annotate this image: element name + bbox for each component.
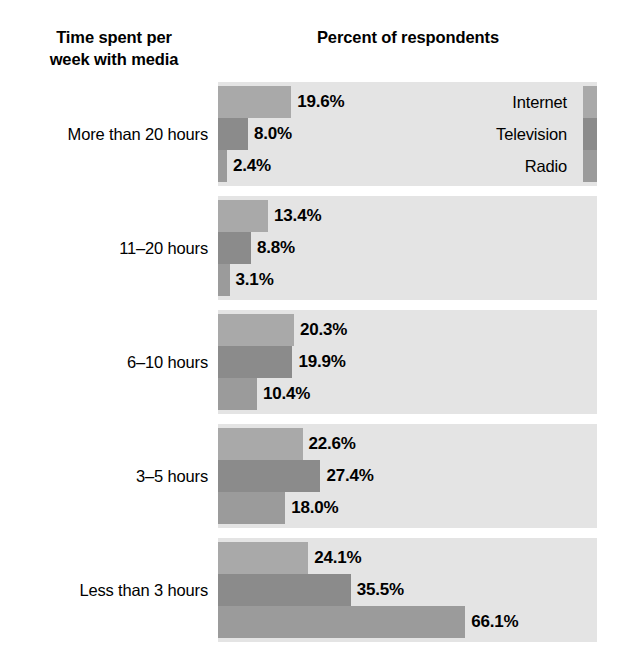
value-axis-title: Percent of respondents — [218, 26, 598, 48]
plot-panel: 22.6%27.4%18.0% — [218, 424, 597, 528]
plot-panel: 24.1%35.5%66.1% — [218, 538, 597, 642]
chart-group: More than 20 hours19.6%8.0%2.4%InternetT… — [0, 82, 620, 186]
bar-row: 19.9% — [218, 346, 597, 378]
legend-label-television: Television — [496, 118, 567, 150]
plot-panel: 19.6%8.0%2.4%InternetTelevisionRadio — [218, 82, 597, 186]
chart-group: Less than 3 hours24.1%35.5%66.1% — [0, 538, 620, 642]
bar-value-label: 27.4% — [320, 460, 373, 492]
bar-radio[interactable] — [218, 492, 285, 524]
category-label: 11–20 hours — [0, 196, 208, 300]
category-label: 3–5 hours — [0, 424, 208, 528]
bar-value-label: 24.1% — [308, 542, 361, 574]
bar-internet[interactable] — [218, 86, 291, 118]
bar-row: 66.1% — [218, 606, 597, 638]
bar-value-label: 8.0% — [248, 118, 292, 150]
bar-internet[interactable] — [218, 200, 268, 232]
legend-swatch-internet — [583, 86, 597, 118]
bar-television[interactable] — [218, 460, 320, 492]
bar-value-label: 22.6% — [303, 428, 356, 460]
bar-row: 10.4% — [218, 378, 597, 410]
category-axis-title: Time spent perweek with media — [18, 26, 210, 70]
bar-value-label: 35.5% — [351, 574, 404, 606]
bar-value-label: 19.9% — [292, 346, 345, 378]
bar-value-label: 18.0% — [285, 492, 338, 524]
plot-panel: 20.3%19.9%10.4% — [218, 310, 597, 414]
bar-internet[interactable] — [218, 314, 294, 346]
bar-television[interactable] — [218, 232, 251, 264]
bar-value-label: 20.3% — [294, 314, 347, 346]
bar-value-label: 3.1% — [230, 264, 274, 296]
bar-value-label: 2.4% — [227, 150, 271, 182]
bar-value-label: 8.8% — [251, 232, 295, 264]
bar-television[interactable] — [218, 574, 351, 606]
bar-value-label: 10.4% — [257, 378, 310, 410]
legend-swatch-radio — [583, 150, 597, 182]
bar-radio[interactable] — [218, 378, 257, 410]
legend-label-radio: Radio — [525, 150, 567, 182]
plot-panel: 13.4%8.8%3.1% — [218, 196, 597, 300]
bar-row: 8.8% — [218, 232, 597, 264]
bar-radio[interactable] — [218, 606, 465, 638]
bar-internet[interactable] — [218, 428, 303, 460]
chart-header: Time spent perweek with media Percent of… — [0, 26, 620, 82]
bar-radio[interactable] — [218, 150, 227, 182]
bar-value-label: 19.6% — [291, 86, 344, 118]
bar-row: 20.3% — [218, 314, 597, 346]
bar-row: 24.1% — [218, 542, 597, 574]
category-label: More than 20 hours — [0, 82, 208, 186]
legend-swatch-television — [583, 118, 597, 150]
bar-radio[interactable] — [218, 264, 230, 296]
bar-value-label: 13.4% — [268, 200, 321, 232]
chart-group: 11–20 hours13.4%8.8%3.1% — [0, 196, 620, 300]
category-label: Less than 3 hours — [0, 538, 208, 642]
bar-television[interactable] — [218, 118, 248, 150]
bar-value-label: 66.1% — [465, 606, 518, 638]
bar-row: 22.6% — [218, 428, 597, 460]
chart-group: 3–5 hours22.6%27.4%18.0% — [0, 424, 620, 528]
bar-row: 18.0% — [218, 492, 597, 524]
category-label: 6–10 hours — [0, 310, 208, 414]
bar-row: 13.4% — [218, 200, 597, 232]
bar-row: 27.4% — [218, 460, 597, 492]
bar-row: 35.5% — [218, 574, 597, 606]
bar-television[interactable] — [218, 346, 292, 378]
legend-label-internet: Internet — [512, 86, 567, 118]
grouped-bar-chart: Time spent perweek with media Percent of… — [0, 0, 620, 652]
bar-row: 3.1% — [218, 264, 597, 296]
bar-internet[interactable] — [218, 542, 308, 574]
chart-group: 6–10 hours20.3%19.9%10.4% — [0, 310, 620, 414]
